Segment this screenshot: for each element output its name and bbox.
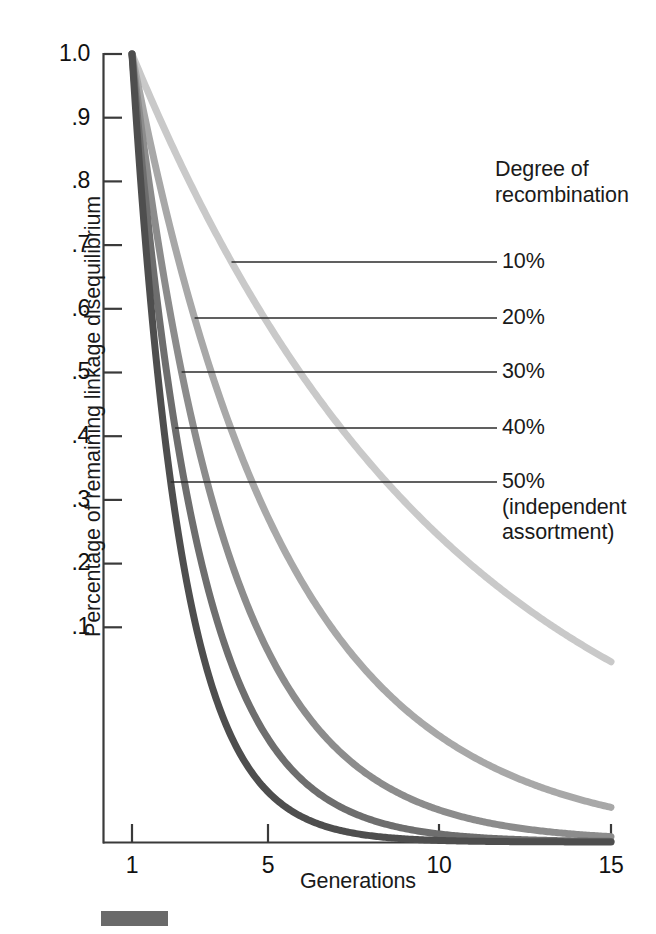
legend-item-40-percent[interactable]: 40%: [502, 415, 545, 441]
bottom-color-swatch: [101, 911, 168, 926]
legend-item-50-percent-note-line-1: (independent: [502, 495, 656, 521]
legend-title-line-2: recombination: [495, 183, 656, 209]
legend-item-50-percent[interactable]: 50% (independent assortment): [502, 469, 656, 546]
legend-item-20-percent[interactable]: 20%: [502, 305, 545, 331]
x-axis-title: Generations: [103, 869, 613, 894]
legend-title: Degree of recombination: [495, 157, 656, 208]
y-axis-title: Percentage of remaining linkage disequil…: [81, 77, 106, 757]
legend-item-10-percent[interactable]: 10%: [502, 249, 545, 275]
legend-item-30-percent[interactable]: 30%: [502, 359, 545, 385]
legend-leader-lines: [171, 262, 497, 482]
legend-item-50-percent-note-line-2: assortment): [502, 520, 656, 546]
legend-item-50-percent-value: 50%: [502, 469, 656, 495]
legend-title-line-1: Degree of: [495, 157, 656, 183]
linkage-disequilibrium-decay-chart: 1.0 .9 .8 .7 .6 .5 .4 .3 .2 .1 1 5 10 15…: [0, 0, 656, 934]
y-axis-ticks: [104, 54, 122, 627]
y-tick-label-1-0: 1.0: [28, 40, 90, 67]
